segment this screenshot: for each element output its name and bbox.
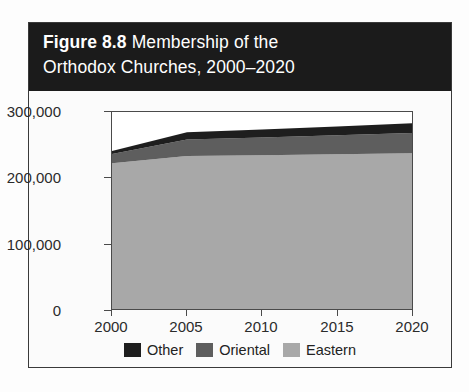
y-axis-label-100000: 100,000 xyxy=(0,236,61,253)
y-axis-tick-100000 xyxy=(104,244,111,245)
legend-label-eastern: Eastern xyxy=(306,342,356,358)
x-axis-tick-2005 xyxy=(186,310,187,316)
x-axis-tick-2000 xyxy=(111,310,112,316)
x-axis-label-2020: 2020 xyxy=(395,318,428,335)
figure-title-banner: Figure 8.8 Membership of the Orthodox Ch… xyxy=(29,23,451,91)
chart-area: 300,000 200,000 100,000 0 2000 2005 2010… xyxy=(29,91,451,369)
area-band-eastern xyxy=(112,153,412,309)
figure-title-first-line: Membership of the xyxy=(127,32,279,52)
y-axis-label-200000: 200,000 xyxy=(0,169,61,186)
x-axis-tick-2015 xyxy=(337,310,338,316)
legend-item-other[interactable]: Other xyxy=(124,342,183,358)
figure-number: Figure 8.8 xyxy=(43,32,127,52)
figure-title-line-2: Orthodox Churches, 2000–2020 xyxy=(43,55,437,80)
y-axis-tick-300000 xyxy=(104,111,111,112)
y-axis-label-300000: 300,000 xyxy=(0,103,61,120)
legend-swatch-other-icon xyxy=(124,343,141,357)
x-axis-tick-2020 xyxy=(412,310,413,316)
x-axis-label-2015: 2015 xyxy=(320,318,353,335)
y-axis-tick-0 xyxy=(104,310,111,311)
plot-frame xyxy=(111,111,413,310)
figure-title-line-1: Figure 8.8 Membership of the xyxy=(43,30,437,55)
chart-legend: Other Oriental Eastern xyxy=(29,342,451,358)
y-axis-tick-200000 xyxy=(104,177,111,178)
x-axis-label-2000: 2000 xyxy=(94,318,127,335)
x-axis-label-2010: 2010 xyxy=(244,318,277,335)
legend-label-other: Other xyxy=(147,342,183,358)
x-axis-tick-2010 xyxy=(261,310,262,316)
legend-swatch-oriental-icon xyxy=(196,343,213,357)
legend-swatch-eastern-icon xyxy=(283,343,300,357)
y-axis-label-0: 0 xyxy=(0,302,61,319)
legend-label-oriental: Oriental xyxy=(219,342,270,358)
legend-item-eastern[interactable]: Eastern xyxy=(283,342,356,358)
legend-item-oriental[interactable]: Oriental xyxy=(196,342,270,358)
x-axis-label-2005: 2005 xyxy=(169,318,202,335)
figure-card: Figure 8.8 Membership of the Orthodox Ch… xyxy=(28,22,452,368)
stacked-area-plot xyxy=(112,112,412,309)
